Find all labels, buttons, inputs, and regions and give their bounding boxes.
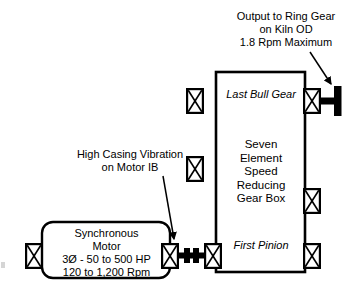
diagram-canvas: Output to Ring Gear on Kiln OD 1.8 Rpm M…: [0, 0, 357, 301]
annotation-output-to-ring-gear: Output to Ring Gear on Kiln OD 1.8 Rpm M…: [216, 10, 356, 49]
label-first-pinion: First Pinion: [216, 239, 306, 252]
label-synchronous-motor: Synchronous Motor 3Ø - 50 to 500 HP 120 …: [43, 227, 170, 279]
annotation-high-casing-vibration: High Casing Vibration on Motor IB: [60, 148, 200, 174]
bearing-gearbox-left-upper: [186, 88, 204, 114]
edge-artifact: [1, 262, 5, 268]
label-gearbox-description: Seven Element Speed Reducing Gear Box: [216, 138, 306, 206]
motor-gearbox-coupling: [179, 248, 204, 263]
leader-line-output: [310, 52, 331, 84]
label-last-bull-gear: Last Bull Gear: [216, 88, 306, 101]
output-shaft-flange: [321, 86, 342, 116]
bearing-motor-outboard: [25, 243, 43, 269]
